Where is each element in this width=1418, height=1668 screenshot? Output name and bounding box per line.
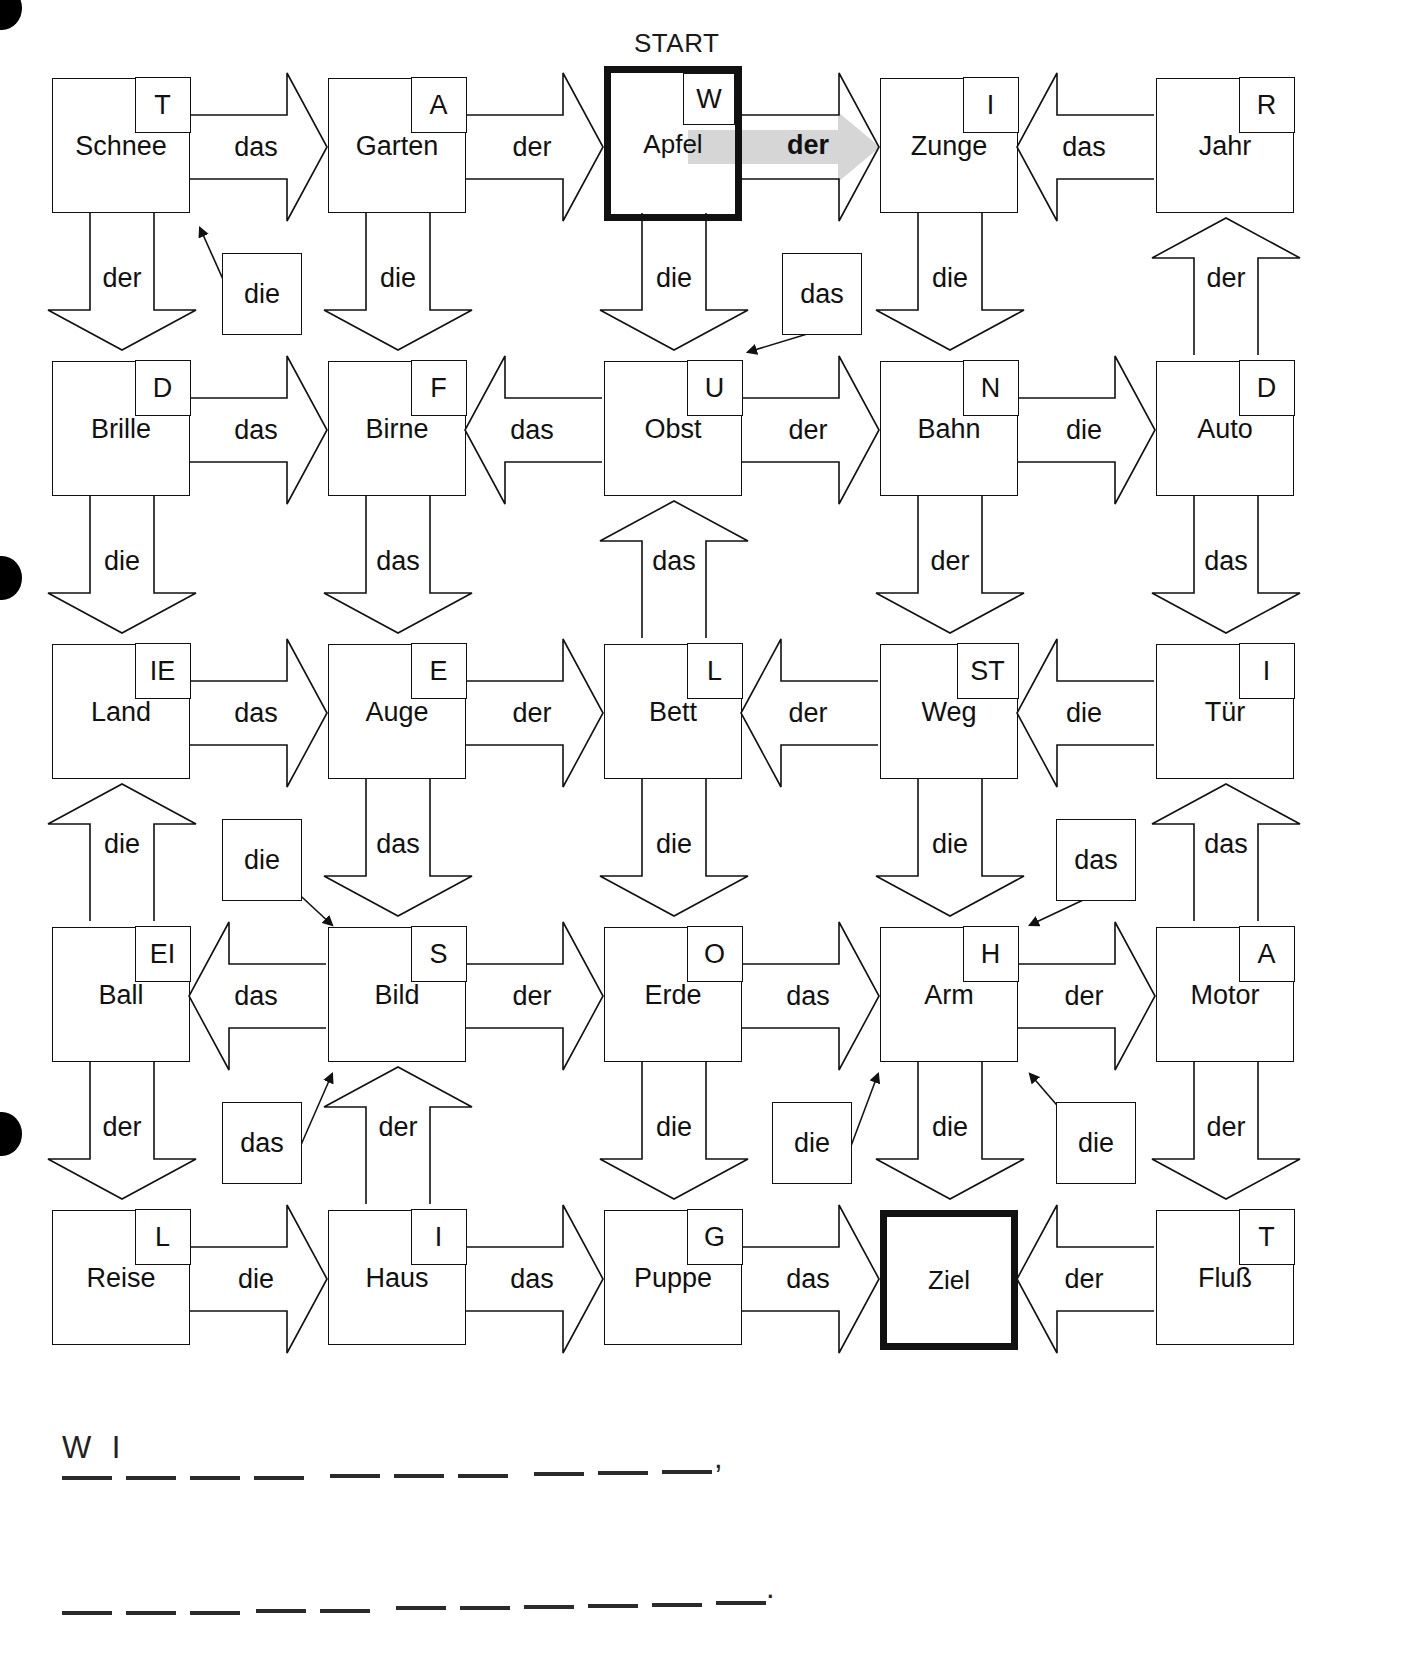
- node-letter: H: [963, 926, 1019, 982]
- node-letter: T: [1239, 1209, 1295, 1265]
- node-word: Ball: [53, 979, 189, 1010]
- maze-node-land[interactable]: Land IE: [52, 644, 190, 779]
- node-word: Puppe: [605, 1262, 741, 1293]
- node-letter: E: [411, 643, 467, 699]
- article-erde-arm: das: [758, 981, 858, 1012]
- maze-node-schnee[interactable]: Schnee T: [52, 78, 190, 213]
- node-letter: ST: [957, 643, 1019, 699]
- node-letter: W: [683, 73, 735, 125]
- node-letter: D: [135, 360, 191, 416]
- article-obst-bahn: der: [758, 415, 858, 446]
- node-letter: S: [411, 926, 467, 982]
- node-letter: L: [687, 643, 743, 699]
- article-auto-tuer: das: [1176, 546, 1276, 577]
- maze-node-tuer[interactable]: Tür I: [1156, 644, 1294, 779]
- article-bahn-weg: der: [900, 546, 1000, 577]
- article-tuer-weg: die: [1034, 698, 1134, 729]
- node-word: Motor: [1157, 979, 1293, 1010]
- node-word: Bahn: [881, 413, 1017, 444]
- node-letter: IE: [135, 643, 191, 699]
- article-haus-bild: der: [348, 1112, 448, 1143]
- article-apfel-obst: die: [624, 263, 724, 294]
- maze-node-arm[interactable]: Arm H: [880, 927, 1018, 1062]
- maze-node-jahr[interactable]: Jahr R: [1156, 78, 1294, 213]
- article-brille-birne: das: [206, 415, 306, 446]
- node-word: Arm: [881, 979, 1017, 1010]
- node-word: Bild: [329, 979, 465, 1010]
- article-bett-erde: die: [624, 829, 724, 860]
- article-birne-auge: das: [348, 546, 448, 577]
- article-zunge-bahn: die: [900, 263, 1000, 294]
- article-erde-puppe: die: [624, 1112, 724, 1143]
- node-word: Ziel: [887, 1265, 1011, 1296]
- diagonal-article-land-bild: die: [222, 819, 302, 901]
- diagonal-article-puppe-arm: die: [772, 1102, 852, 1184]
- node-word: Haus: [329, 1262, 465, 1293]
- node-letter: I: [1239, 643, 1295, 699]
- article-bahn-auto: die: [1034, 415, 1134, 446]
- node-letter: D: [1239, 360, 1295, 416]
- maze-node-fluss[interactable]: Fluß T: [1156, 1210, 1294, 1345]
- article-arm-ziel: die: [900, 1112, 1000, 1143]
- article-arm-motor: der: [1034, 981, 1134, 1012]
- node-word: Obst: [605, 413, 741, 444]
- node-word: Zunge: [881, 130, 1017, 161]
- diagonal-article-birne-schnee: die: [222, 253, 302, 335]
- node-letter: I: [963, 77, 1019, 133]
- maze-node-bild[interactable]: Bild S: [328, 927, 466, 1062]
- node-word: Jahr: [1157, 130, 1293, 161]
- node-letter: T: [135, 77, 191, 133]
- node-letter: N: [963, 360, 1019, 416]
- node-letter: L: [135, 1209, 191, 1265]
- answer-line2-punctuation: .: [766, 1570, 775, 1606]
- maze-node-bett[interactable]: Bett L: [604, 644, 742, 779]
- article-bild-ball: das: [206, 981, 306, 1012]
- article-jahr-zunge: das: [1034, 132, 1134, 163]
- article-reise-haus: die: [206, 1264, 306, 1295]
- node-word: Auge: [329, 696, 465, 727]
- maze-node-brille[interactable]: Brille D: [52, 361, 190, 496]
- node-word: Reise: [53, 1262, 189, 1293]
- answer-prefix-letters: W I: [62, 1430, 127, 1466]
- article-puppe-ziel: das: [758, 1264, 858, 1295]
- article-weg-arm: die: [900, 829, 1000, 860]
- maze-node-auto[interactable]: Auto D: [1156, 361, 1294, 496]
- maze-node-obst[interactable]: Obst U: [604, 361, 742, 496]
- article-ball-land: die: [72, 829, 172, 860]
- maze-node-haus[interactable]: Haus I: [328, 1210, 466, 1345]
- maze-node-garten[interactable]: Garten A: [328, 78, 466, 213]
- maze-node-weg[interactable]: Weg ST: [880, 644, 1018, 779]
- maze-node-erde[interactable]: Erde O: [604, 927, 742, 1062]
- article-obst-birne: das: [482, 415, 582, 446]
- node-letter: O: [687, 926, 743, 982]
- diagonal-article-fluss-arm: die: [1056, 1102, 1136, 1184]
- maze-node-puppe[interactable]: Puppe G: [604, 1210, 742, 1345]
- node-letter: R: [1239, 77, 1295, 133]
- node-word: Schnee: [53, 130, 189, 161]
- article-land-auge: das: [206, 698, 306, 729]
- maze-node-reise[interactable]: Reise L: [52, 1210, 190, 1345]
- node-word: Tür: [1157, 696, 1293, 727]
- article-auge-bild: das: [348, 829, 448, 860]
- maze-node-ziel-goal[interactable]: Ziel: [880, 1210, 1018, 1350]
- node-letter: EI: [135, 926, 191, 982]
- maze-node-birne[interactable]: Birne F: [328, 361, 466, 496]
- maze-node-auge[interactable]: Auge E: [328, 644, 466, 779]
- article-garten-apfel: der: [482, 132, 582, 163]
- article-schnee-garten: das: [206, 132, 306, 163]
- maze-node-apfel-start[interactable]: Apfel W: [604, 66, 742, 221]
- article-brille-land: die: [72, 546, 172, 577]
- maze-node-ball[interactable]: Ball EI: [52, 927, 190, 1062]
- node-letter: I: [411, 1209, 467, 1265]
- node-letter: U: [687, 360, 743, 416]
- article-weg-bett: der: [758, 698, 858, 729]
- node-letter: A: [411, 77, 467, 133]
- article-ball-reise: der: [72, 1112, 172, 1143]
- maze-node-bahn[interactable]: Bahn N: [880, 361, 1018, 496]
- maze-node-motor[interactable]: Motor A: [1156, 927, 1294, 1062]
- node-word: Birne: [329, 413, 465, 444]
- node-word: Land: [53, 696, 189, 727]
- maze-node-zunge[interactable]: Zunge I: [880, 78, 1018, 213]
- article-haus-puppe: das: [482, 1264, 582, 1295]
- node-word: Garten: [329, 130, 465, 161]
